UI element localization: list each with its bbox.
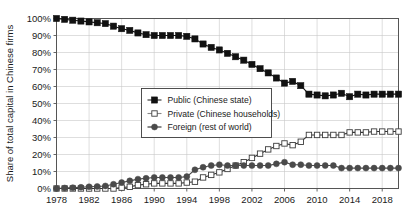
data-point-foreign <box>363 165 369 171</box>
data-point-private <box>127 184 132 189</box>
data-point-public <box>273 75 279 81</box>
data-point-foreign <box>94 183 100 189</box>
data-point-foreign <box>379 165 385 171</box>
data-point-public <box>363 92 369 98</box>
data-point-public <box>53 15 59 21</box>
share-of-capital-line-chart: 0%10%20%30%40%50%60%70%80%90%100% 197819… <box>0 0 413 218</box>
series-line-private <box>57 132 399 189</box>
data-point-foreign <box>127 178 133 184</box>
data-point-public <box>298 83 304 89</box>
data-point-public <box>395 91 401 97</box>
y-tick-label: 10% <box>32 166 52 177</box>
data-point-foreign <box>62 185 68 191</box>
data-point-foreign <box>282 159 288 165</box>
data-point-foreign <box>208 163 214 169</box>
data-point-foreign <box>111 181 117 187</box>
data-point-public <box>167 32 173 38</box>
data-point-foreign <box>168 174 174 180</box>
data-point-public <box>159 32 165 38</box>
y-axis-title-group: Share of total capital in Chinese firms <box>4 25 15 183</box>
y-axis-title: Share of total capital in Chinese firms <box>4 25 15 183</box>
x-tick-label: 1998 <box>209 194 230 205</box>
series-line-public <box>57 19 399 97</box>
data-point-public <box>200 41 206 47</box>
data-point-foreign <box>119 180 125 186</box>
y-tick-label: 60% <box>32 81 52 92</box>
y-tick-label: 0% <box>37 183 51 194</box>
data-point-foreign <box>306 163 312 169</box>
data-point-private <box>314 132 319 137</box>
data-point-public <box>306 91 312 97</box>
data-point-foreign <box>265 163 271 169</box>
data-point-private <box>396 129 401 134</box>
x-tick-label: 1978 <box>46 194 67 205</box>
data-point-public <box>249 61 255 67</box>
data-point-private <box>298 139 303 144</box>
data-point-foreign <box>143 175 149 181</box>
chart-container: 0%10%20%30%40%50%60%70%80%90%100% 197819… <box>0 0 413 218</box>
data-point-foreign <box>396 165 402 171</box>
data-point-private <box>331 132 336 137</box>
data-point-public <box>314 92 320 98</box>
data-point-private <box>217 170 222 175</box>
data-point-public <box>127 27 133 33</box>
data-point-private <box>192 179 197 184</box>
data-point-public <box>216 47 222 53</box>
data-point-public <box>208 44 214 50</box>
legend-label: Foreign (rest of world) <box>168 122 252 132</box>
data-point-foreign <box>233 163 239 169</box>
data-point-public <box>290 78 296 84</box>
data-point-foreign <box>257 163 263 169</box>
data-point-private <box>323 132 328 137</box>
data-point-private <box>168 181 173 186</box>
y-tick-label: 50% <box>32 98 52 109</box>
data-point-public <box>62 16 68 22</box>
legend-label: Private (Chinese households) <box>168 109 281 119</box>
legend: Public (Chinese state)Private (Chinese h… <box>142 89 281 138</box>
data-point-private <box>249 155 254 160</box>
data-point-foreign <box>176 174 182 180</box>
series-foreign <box>54 159 402 191</box>
data-point-public <box>110 23 116 29</box>
data-point-public <box>387 91 393 97</box>
series-private <box>54 129 401 191</box>
x-tick-label: 2014 <box>339 194 360 205</box>
data-point-public <box>233 54 239 60</box>
data-point-public <box>347 94 353 100</box>
x-tick-label: 2018 <box>372 194 393 205</box>
data-point-foreign <box>54 186 60 192</box>
data-point-private <box>266 147 271 152</box>
legend-item-1[interactable]: Private (Chinese households) <box>148 109 281 119</box>
data-point-public <box>94 20 100 26</box>
data-point-private <box>135 182 140 187</box>
data-point-private <box>371 129 376 134</box>
data-point-public <box>322 93 328 99</box>
data-point-public <box>176 32 182 38</box>
data-point-private <box>200 175 205 180</box>
x-tick-label: 2002 <box>241 194 262 205</box>
data-point-foreign <box>339 165 345 171</box>
data-point-public <box>151 32 157 38</box>
x-tick-label: 2006 <box>274 194 295 205</box>
data-point-public <box>355 91 361 97</box>
legend-marker-filled-square <box>151 97 157 103</box>
data-point-private <box>176 181 181 186</box>
data-point-foreign <box>387 165 393 171</box>
y-tick-label: 30% <box>32 132 52 143</box>
data-point-foreign <box>273 161 279 167</box>
data-point-private <box>209 172 214 177</box>
data-point-private <box>274 143 279 148</box>
data-point-public <box>241 57 247 63</box>
y-axis-ticks: 0%10%20%30%40%50%60%70%80%90%100% <box>27 13 57 194</box>
x-tick-label: 2010 <box>307 194 328 205</box>
data-point-foreign <box>70 185 76 191</box>
data-point-public <box>338 90 344 96</box>
data-point-foreign <box>241 163 247 169</box>
y-tick-label: 40% <box>32 115 52 126</box>
data-point-public <box>371 91 377 97</box>
legend-marker-open-square <box>152 111 157 116</box>
x-tick-label: 1982 <box>79 194 100 205</box>
data-point-foreign <box>347 165 353 171</box>
x-tick-label: 1986 <box>111 194 132 205</box>
y-tick-label: 90% <box>32 30 52 41</box>
